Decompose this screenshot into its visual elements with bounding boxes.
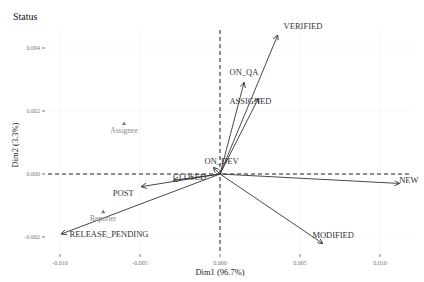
x-tick-label: -0.010 xyxy=(52,260,68,266)
label-assigned: ASSIGNED xyxy=(229,96,271,106)
y-tick-label: 0.002 xyxy=(27,108,41,114)
x-axis-label: Dim1 (96.7%) xyxy=(195,267,244,277)
y-tick-label: 0.000 xyxy=(27,171,41,177)
label-reporter: Reporter xyxy=(90,214,117,223)
label-verified: VERIFIED xyxy=(284,21,323,31)
label-modified: MODIFIED xyxy=(312,230,354,240)
arrow-on-dev xyxy=(214,168,220,174)
x-tick-label: -0.005 xyxy=(132,260,148,266)
y-tick-label: 0.004 xyxy=(27,45,41,51)
label-post: POST xyxy=(113,188,135,198)
label-release-pending: RELEASE_PENDING xyxy=(70,229,149,239)
label-assignee: Assignee xyxy=(110,126,138,135)
label-new: NEW xyxy=(399,175,418,185)
label-on-dev: ON_DEV xyxy=(205,156,240,166)
triangle-assignee xyxy=(122,121,126,125)
x-tick-label: 0.010 xyxy=(373,260,387,266)
x-tick-label: 0.005 xyxy=(293,260,307,266)
arrow-new xyxy=(220,174,399,183)
y-tick-label: -0.002 xyxy=(25,234,41,240)
label-on-qa: ON_QA xyxy=(230,67,260,77)
chart-title: Status xyxy=(13,11,38,22)
y-axis-label: Dim2 (3.3%) xyxy=(10,122,20,167)
ca-biplot-chart: Status -0.010-0.0050.0000.0050.010-0.002… xyxy=(0,0,424,282)
triangle-reporter xyxy=(101,210,105,214)
x-tick-label: 0.000 xyxy=(213,260,227,266)
arrow-modified xyxy=(220,174,322,243)
arrow-release-pending xyxy=(62,174,220,234)
